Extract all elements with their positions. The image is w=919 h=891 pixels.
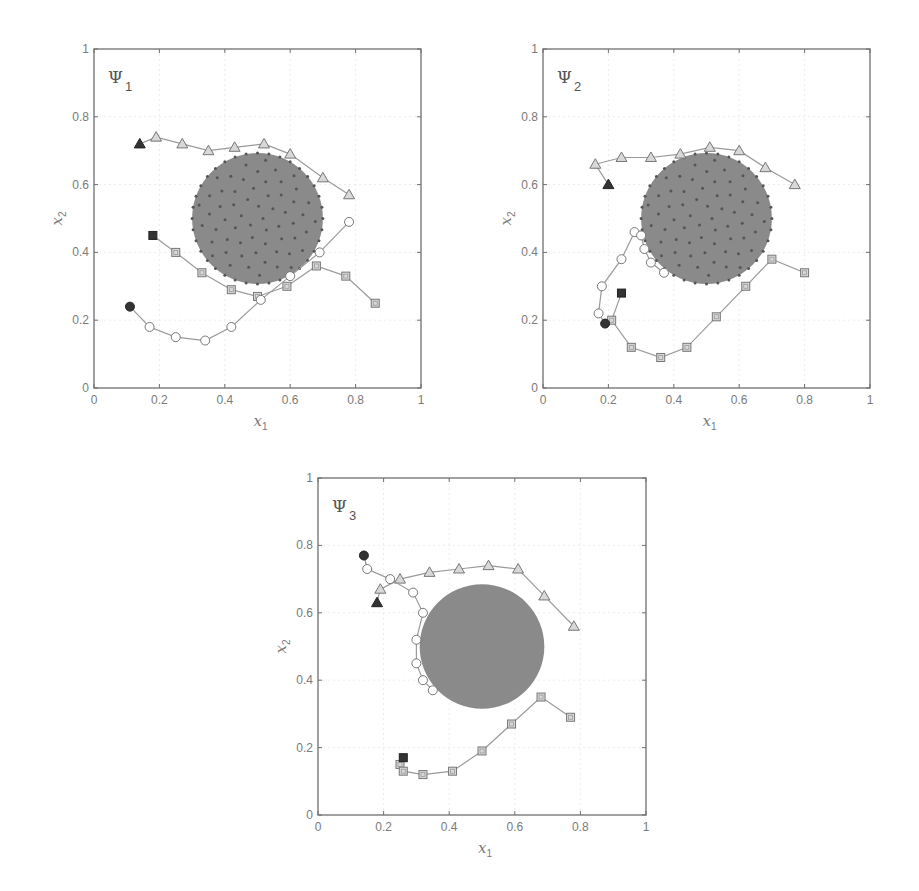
obstacle-sample-dot: [192, 206, 195, 209]
obstacle-sample-dot: [240, 214, 243, 217]
obstacle-sample-dot: [208, 213, 211, 216]
start-square-marker: [617, 289, 625, 297]
obstacle-sample-dot: [705, 152, 708, 155]
x-tick-label: 0: [91, 393, 98, 407]
obstacle-sample-dot: [657, 213, 660, 216]
obstacle-sample-dot: [641, 206, 644, 209]
obstacle-sample-dot: [705, 282, 708, 285]
obstacle-sample-dot: [724, 250, 727, 253]
obstacle-sample-dot: [307, 201, 310, 204]
obstacle-sample-dot: [234, 156, 237, 159]
obstacle-sample-dot: [277, 225, 280, 228]
obstacle-sample-dot: [648, 184, 651, 187]
obstacle-sample-dot: [223, 274, 226, 277]
obstacle-sample-dot: [703, 251, 706, 254]
circle-marker: [315, 248, 324, 257]
x-axis-label-sub: 1: [262, 421, 268, 432]
plot-panel-3: 00.20.40.60.8100.20.40.60.81x1x2Ψ3: [272, 471, 650, 859]
obstacle-sample-dot: [700, 236, 703, 239]
x-tick-label: 0.8: [796, 393, 813, 407]
obstacle-sample-dot: [242, 178, 245, 181]
obstacle-sample-dot: [729, 193, 732, 196]
obstacle-sample-dot: [701, 187, 704, 190]
obstacle-sample-dot: [657, 194, 660, 197]
x-tick-label: 0.2: [151, 393, 168, 407]
obstacle-sample-dot: [301, 213, 304, 216]
figure-canvas: 00.20.40.60.8100.20.40.60.81x1x2Ψ100.20.…: [0, 0, 919, 891]
start-circle-marker: [125, 302, 134, 311]
start-circle-marker: [359, 551, 368, 560]
obstacle-sample-dot: [195, 195, 198, 198]
obstacle-sample-dot: [696, 266, 699, 269]
obstacle-sample-dot: [224, 218, 227, 221]
obstacle-sample-dot: [305, 230, 308, 233]
obstacle-sample-dot: [681, 203, 684, 206]
panel-label-sub: 1: [125, 79, 132, 94]
obstacle-sample-dot: [755, 259, 758, 262]
square-marker: [627, 343, 635, 351]
obstacle-sample-dot: [729, 180, 732, 183]
obstacle-sample-dot: [313, 184, 316, 187]
square-marker: [801, 269, 809, 277]
x-axis-label: x1: [703, 412, 717, 432]
x-tick-label: 0: [315, 820, 322, 834]
obstacle-sample-dot: [716, 281, 719, 284]
obstacle-sample-dot: [211, 254, 214, 257]
obstacle-sample-dot: [278, 156, 281, 159]
obstacle-sample-dot: [256, 152, 259, 155]
obstacle-sample-dot: [650, 224, 653, 227]
obstacle-sample-dot: [275, 250, 278, 253]
obstacle-sample-dot: [288, 252, 291, 255]
obstacle-sample-dot: [215, 228, 218, 231]
y-tick-label: 0.4: [296, 673, 313, 687]
obstacle-sample-dot: [261, 217, 264, 220]
obstacle-sample-dot: [220, 189, 223, 192]
obstacle-sample-dot: [763, 220, 766, 223]
x-tick-label: 0.6: [506, 820, 523, 834]
obstacle-sample-dot: [245, 153, 248, 156]
obstacle-sample-dot: [293, 237, 296, 240]
obstacle-sample-dot: [698, 223, 701, 226]
obstacle-sample-dot: [678, 175, 681, 178]
x-tick-label: 0.6: [282, 393, 299, 407]
square-marker: [712, 313, 720, 321]
obstacle-sample-dot: [264, 261, 267, 264]
obstacle-sample-dot: [314, 220, 317, 223]
obstacle-sample-dot: [707, 274, 710, 277]
obstacle-sample-dot: [216, 176, 219, 179]
obstacle-sample-dot: [742, 237, 745, 240]
obstacle-sample-dot: [214, 167, 217, 170]
y-tick-label: 0.2: [296, 741, 313, 755]
panel-label: Ψ1: [108, 67, 132, 94]
obstacle-sample-dot: [223, 160, 226, 163]
obstacle-sample-dot: [292, 200, 295, 203]
square-marker: [283, 282, 291, 290]
obstacle-sample-dot: [280, 237, 283, 240]
obstacle-sample-dot: [320, 228, 323, 231]
circle-marker: [418, 608, 427, 617]
panel-label-psi: Ψ: [332, 496, 347, 516]
triangle-marker: [151, 132, 162, 142]
obstacle-sample-dot: [668, 205, 671, 208]
obstacle-sample-dot: [234, 278, 237, 281]
obstacle-sample-dot: [727, 156, 730, 159]
panel-label: Ψ3: [332, 496, 356, 523]
obstacle-sample-dot: [738, 274, 741, 277]
obstacle-sample-dot: [245, 164, 248, 167]
obstacle-sample-dot: [713, 159, 716, 162]
x-axis-label: x1: [254, 412, 268, 432]
circle-marker: [386, 575, 395, 584]
obstacle-sample-dot: [726, 225, 729, 228]
obstacle-sample-dot: [705, 170, 708, 173]
start-square-marker: [399, 754, 407, 762]
circle-marker: [256, 295, 265, 304]
panel-label-sub: 2: [574, 79, 581, 94]
panel-label-sub: 3: [349, 508, 356, 523]
start-circle-marker: [601, 319, 610, 328]
x-tick-label: 0.8: [572, 820, 589, 834]
obstacle-sample-dot: [750, 213, 753, 216]
obstacle-sample-dot: [267, 153, 270, 156]
obstacle-sample-dot: [198, 204, 201, 207]
obstacle-sample-dot: [201, 224, 204, 227]
circle-marker: [145, 322, 154, 331]
